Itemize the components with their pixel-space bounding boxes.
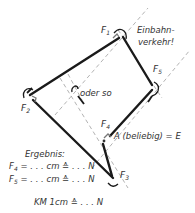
label-f2: F2 [21, 103, 30, 114]
label-f1: F1 [101, 25, 110, 36]
label-f4: F4 [101, 119, 110, 130]
force-polygon-diagram: F1 F5 F2 F4 F3 Einbahn- verkehr! oder so… [0, 0, 195, 213]
f5-arrowhead-icon [148, 96, 152, 102]
point-a [103, 140, 106, 143]
side-f5-f4 [110, 90, 152, 136]
label-f3: F3 [120, 170, 129, 181]
f3-curl-icon [108, 183, 118, 186]
result-f4-row: F4 = . . . cm ≙ . . . N [9, 161, 95, 172]
one-way-note-line1: Einbahn- [137, 25, 175, 35]
one-way-note-line2: verkehr! [138, 37, 174, 47]
label-f5: F5 [153, 64, 162, 75]
alternative-note: oder so [80, 88, 112, 98]
result-heading: Ergebnis: [25, 149, 65, 159]
f5-curl-icon [152, 82, 159, 96]
point-a-label: A (beliebig) = E [113, 131, 181, 141]
scale-label: KM 1cm ≙ . . . N [34, 197, 104, 207]
result-f5-row: F5 = . . . cm ≙ . . . N [9, 174, 95, 185]
